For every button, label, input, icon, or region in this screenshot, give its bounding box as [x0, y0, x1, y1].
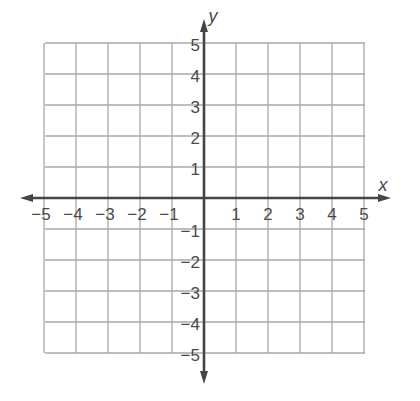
y-tick-label: 2	[191, 129, 200, 148]
x-tick-label: −1	[159, 205, 178, 224]
y-tick-labels: 54321−1−2−3−4−5	[181, 36, 200, 365]
y-tick-label: 5	[191, 36, 200, 55]
coordinate-plane: −5−4−3−2−112345 54321−1−2−3−4−5 x y	[0, 0, 420, 401]
y-tick-label: 4	[191, 67, 200, 86]
x-tick-labels: −5−4−3−2−112345	[31, 205, 368, 224]
y-tick-label: 3	[191, 98, 200, 117]
x-tick-label: 2	[263, 205, 272, 224]
y-tick-label: −3	[181, 284, 200, 303]
x-tick-label: −2	[127, 205, 146, 224]
x-tick-label: −5	[31, 205, 50, 224]
y-axis-down-arrow-icon	[200, 371, 208, 384]
x-tick-label: 5	[359, 205, 368, 224]
y-tick-label: 1	[191, 160, 200, 179]
y-axis-up-arrow-icon	[200, 19, 208, 32]
x-axis-left-arrow-icon	[20, 194, 33, 202]
y-tick-label: −2	[181, 253, 200, 272]
x-tick-label: 1	[231, 205, 240, 224]
y-tick-label: −1	[181, 222, 200, 241]
y-tick-label: −4	[181, 315, 200, 334]
x-tick-label: −4	[63, 205, 82, 224]
x-tick-label: 3	[295, 205, 304, 224]
x-axis-right-arrow-icon	[378, 194, 391, 202]
y-axis-label: y	[207, 6, 219, 26]
x-axis-label: x	[378, 175, 389, 195]
y-tick-label: −5	[181, 346, 200, 365]
x-tick-label: 4	[327, 205, 336, 224]
x-tick-label: −3	[95, 205, 114, 224]
